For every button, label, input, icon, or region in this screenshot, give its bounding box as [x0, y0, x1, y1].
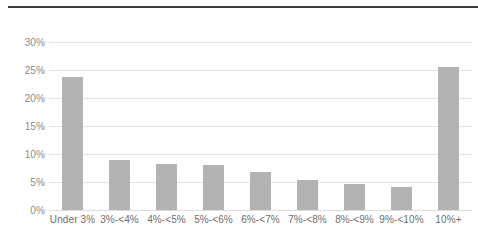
bar	[156, 164, 177, 210]
y-tick-label: 25%	[0, 65, 45, 76]
y-tick-label: 20%	[0, 93, 45, 104]
x-tick-label: Under 3%	[50, 213, 95, 227]
x-tick-label: 3%-<4%	[100, 213, 139, 227]
y-tick-label: 5%	[0, 177, 45, 188]
y-tick-label: 10%	[0, 149, 45, 160]
bars-layer	[49, 42, 472, 210]
bar	[344, 184, 365, 210]
bar	[250, 172, 271, 210]
gridline-0%	[49, 210, 472, 211]
bar	[297, 180, 318, 210]
bar-chart-figure: 0%5%10%15%20%25%30% Under 3%3%-<4%4%-<5%…	[0, 0, 478, 240]
bar	[203, 165, 224, 210]
y-tick-label: 0%	[0, 205, 45, 216]
header-rule	[8, 6, 478, 8]
bar	[438, 67, 459, 210]
x-tick-label: 8%-<9%	[335, 213, 374, 227]
y-axis: 0%5%10%15%20%25%30%	[0, 42, 45, 210]
x-tick-label: 5%-<6%	[194, 213, 233, 227]
x-axis: Under 3%3%-<4%4%-<5%5%-<6%6%-<7%7%-<8%8%…	[49, 213, 472, 233]
y-tick-label: 30%	[0, 37, 45, 48]
x-tick-label: 4%-<5%	[147, 213, 186, 227]
x-tick-label: 7%-<8%	[288, 213, 327, 227]
bar	[62, 77, 83, 210]
x-tick-label: 10%+	[435, 213, 461, 227]
x-tick-label: 6%-<7%	[241, 213, 280, 227]
bar	[391, 187, 412, 210]
y-tick-label: 15%	[0, 121, 45, 132]
bar	[109, 160, 130, 210]
x-tick-label: 9%-<10%	[379, 213, 423, 227]
